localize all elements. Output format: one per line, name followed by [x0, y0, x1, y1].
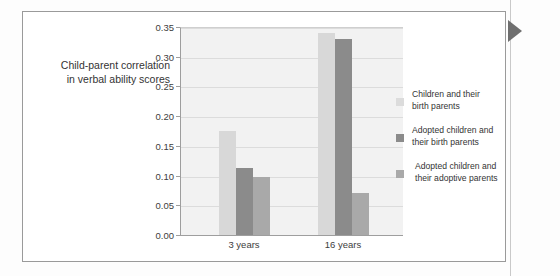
bar — [352, 193, 369, 235]
legend-item-label: Adopted children and their adoptive pare… — [415, 161, 508, 184]
x-axis-line — [180, 235, 403, 236]
x-axis-tick-label: 16 years — [325, 239, 361, 250]
y-axis-tick-mark — [176, 205, 180, 206]
y-axis-tick-mark — [176, 57, 180, 58]
bar — [219, 131, 236, 235]
y-axis-tick-mark — [176, 235, 180, 236]
legend-item-label: Children and their birth parents — [412, 89, 508, 112]
gridline — [181, 117, 403, 118]
y-axis-tick-mark — [176, 116, 180, 117]
legend-item[interactable]: Adopted children and their birth parents — [396, 125, 508, 148]
x-axis-tick-label: 3 years — [228, 239, 259, 250]
legend-swatch-icon — [396, 98, 404, 106]
y-axis-tick-label: 0.10 — [140, 172, 174, 182]
y-axis-tick-mark — [176, 146, 180, 147]
legend-swatch-icon — [396, 170, 404, 178]
bar — [335, 39, 352, 235]
y-axis-tick-label: 0.25 — [140, 82, 174, 92]
gridline — [181, 177, 403, 178]
bar — [318, 33, 335, 235]
y-axis-tick-label: 0.35 — [140, 23, 174, 33]
legend-item[interactable]: Adopted children and their adoptive pare… — [396, 161, 508, 184]
y-axis-tick-labels: 0.000.050.100.150.200.250.300.35 — [134, 27, 174, 235]
gridline — [181, 87, 403, 88]
bar — [236, 168, 253, 235]
gridline — [181, 28, 403, 29]
triangle-right-icon[interactable] — [508, 20, 522, 42]
legend-item[interactable]: Children and their birth parents — [396, 89, 508, 112]
legend-swatch-icon — [396, 134, 404, 142]
plot-area — [180, 27, 403, 236]
gridline — [181, 58, 403, 59]
y-axis-tick-mark — [176, 176, 180, 177]
gridline — [181, 206, 403, 207]
y-axis-tick-label: 0.05 — [140, 201, 174, 211]
y-axis-tick-mark — [176, 86, 180, 87]
legend-item-label: Adopted children and their birth parents — [412, 125, 508, 148]
y-axis-tick-mark — [176, 27, 180, 28]
y-axis-tick-label: 0.20 — [140, 112, 174, 122]
y-axis-tick-label: 0.00 — [140, 231, 174, 241]
y-axis-tick-label: 0.15 — [140, 142, 174, 152]
chart-legend: Children and their birth parentsAdopted … — [396, 89, 508, 197]
y-axis-tick-label: 0.30 — [140, 53, 174, 63]
bar — [253, 177, 270, 235]
gridline — [181, 147, 403, 148]
